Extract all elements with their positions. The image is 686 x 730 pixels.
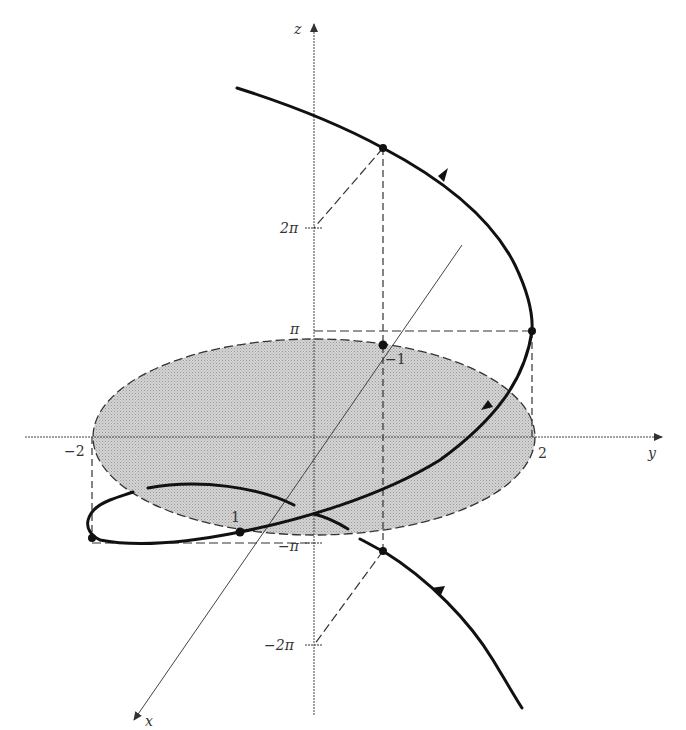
tick-z-2pi: 2π <box>279 220 299 236</box>
helix-diagram: z y x π 2π −π −2π −2 2 −1 1 <box>0 0 686 730</box>
point-right-pi <box>528 327 536 335</box>
tick-y-neg2: −2 <box>64 443 85 459</box>
point-left <box>88 534 96 542</box>
arrow-upper <box>438 168 448 182</box>
helix-lower-segment <box>360 539 522 708</box>
x-axis-label: x <box>145 713 153 729</box>
point-top <box>379 144 387 152</box>
tick-z-neg-2pi: −2π <box>264 637 295 653</box>
tick-x-neg1: −1 <box>385 351 406 367</box>
tick-z-neg-pi: −π <box>278 538 300 554</box>
z-axis-label: z <box>293 21 302 37</box>
helix-upper-segment <box>237 88 532 331</box>
tick-y-2: 2 <box>538 445 547 461</box>
point-bottom <box>379 547 387 555</box>
point-neg1 <box>379 341 388 350</box>
tick-z-pi: π <box>289 321 300 337</box>
tick-x-1: 1 <box>231 509 240 525</box>
point-one <box>236 528 245 537</box>
y-axis-label: y <box>647 445 657 461</box>
